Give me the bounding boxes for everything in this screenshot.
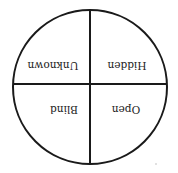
quadrant-label-blind: Blind — [50, 104, 78, 116]
quadrant-label-hidden: Hidden — [107, 60, 146, 72]
quadrant-label-open: Open — [112, 104, 141, 116]
stray-dot — [155, 163, 157, 165]
quadrant-label-unknown: Unknown — [27, 60, 78, 72]
johari-window-diagram: Unknown Hidden Blind Open — [0, 0, 178, 173]
